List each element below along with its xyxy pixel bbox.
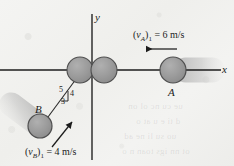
ball-a-label: A <box>168 87 175 98</box>
velocity-a-state-subscript: 1 <box>148 35 152 43</box>
velocity-b-label: (vB)1 = 4 m/s <box>25 147 77 160</box>
physics-figure: ue cu nc ol on d ti e u at o uo su li ne… <box>0 0 234 166</box>
velocity-b-state-subscript: 1 <box>40 152 44 160</box>
y-axis-label: y <box>95 12 100 23</box>
ball-b-label: B <box>35 104 42 115</box>
slope-triangle-hypotenuse-label: 5 <box>59 86 63 94</box>
ball-a <box>160 57 186 83</box>
ball-b <box>28 114 52 138</box>
ball-origin-left <box>67 57 93 83</box>
slope-triangle-horizontal-label: 3 <box>61 98 65 106</box>
velocity-b-units: m/s <box>62 146 76 157</box>
velocity-a-units: m/s <box>170 29 184 40</box>
velocity-a-label: (vA)1 = 6 m/s <box>133 30 185 43</box>
velocity-a-equals: = <box>154 29 160 40</box>
slope-triangle-vertical-label: 4 <box>70 90 74 98</box>
diagram-canvas <box>0 0 234 166</box>
velocity-a-value: 6 <box>163 29 168 40</box>
x-axis-label: x <box>222 64 227 75</box>
velocity-b-value: 4 <box>55 146 60 157</box>
ball-origin-right <box>91 57 117 83</box>
velocity-b-arrow <box>52 122 72 147</box>
velocity-b-equals: = <box>46 146 52 157</box>
